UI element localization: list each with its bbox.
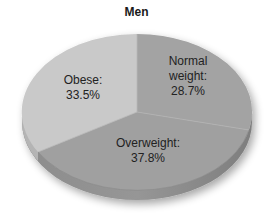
- label-normal-value: 28.7%: [171, 84, 205, 98]
- label-overweight-value: 37.8%: [131, 151, 165, 165]
- pie-chart: Normal weight: 28.7% Overweight: 37.8% O…: [0, 0, 273, 221]
- label-normal-line2: weight:: [168, 69, 207, 83]
- label-obese-value: 33.5%: [66, 88, 100, 102]
- label-overweight-line1: Overweight:: [116, 136, 180, 150]
- label-obese-line1: Obese:: [64, 73, 103, 87]
- label-normal-line1: Normal: [169, 54, 208, 68]
